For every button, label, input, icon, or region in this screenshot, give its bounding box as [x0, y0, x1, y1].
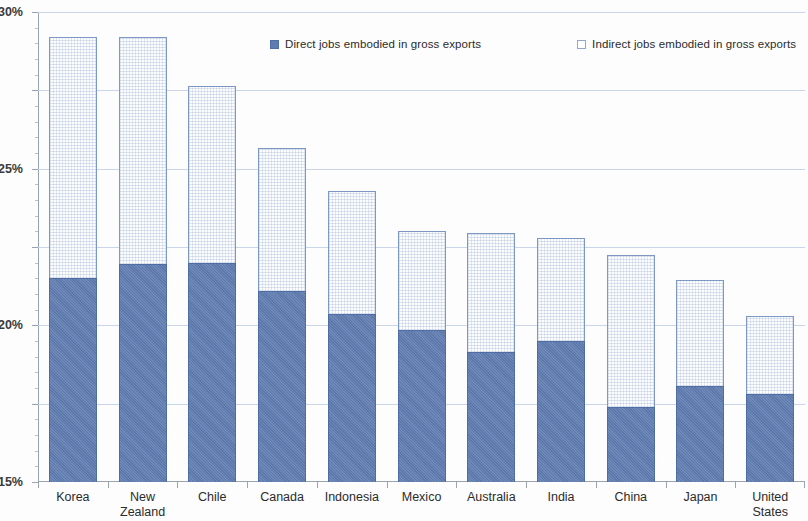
- bar-segment-direct[interactable]: [467, 352, 515, 482]
- x-axis-tick-mark: [247, 482, 248, 488]
- y-axis-tick-label: 15%: [0, 475, 23, 489]
- x-axis-label-line: Indonesia: [317, 490, 387, 505]
- bar-segment-indirect[interactable]: [746, 316, 794, 394]
- bar-segment-direct[interactable]: [328, 314, 376, 482]
- x-axis-label-line: Chile: [177, 490, 247, 505]
- x-axis-category-label: Indonesia: [317, 489, 387, 521]
- x-axis-tick-mark: [804, 482, 805, 488]
- bar-slot: [177, 12, 247, 482]
- x-axis-category-label: Australia: [456, 489, 526, 521]
- bar-segment-indirect[interactable]: [398, 231, 446, 330]
- bar-slot: [108, 12, 178, 482]
- x-axis-label-line: New: [108, 490, 178, 505]
- x-axis-category-label: Chile: [177, 489, 247, 521]
- bar-segment-direct[interactable]: [49, 278, 97, 482]
- bar-segment-direct[interactable]: [398, 330, 446, 482]
- y-axis-tick-label: 25%: [0, 162, 23, 176]
- bar-slot: [387, 12, 457, 482]
- x-axis-tick-mark: [387, 482, 388, 488]
- bar-segment-indirect[interactable]: [537, 238, 585, 341]
- bar-slot: [247, 12, 317, 482]
- x-axis-label-line: Zealand: [108, 505, 178, 520]
- x-axis-tick-mark: [456, 482, 457, 488]
- x-axis-label-line: Japan: [666, 490, 736, 505]
- x-axis-category-label: Korea: [38, 489, 108, 521]
- x-axis-labels: KoreaNewZealandChileCanadaIndonesiaMexic…: [38, 489, 805, 521]
- bar-segment-indirect[interactable]: [676, 280, 724, 387]
- x-axis-label-line: United: [735, 490, 805, 505]
- x-axis-tick-mark: [666, 482, 667, 488]
- x-axis-label-line: States: [735, 505, 805, 520]
- stacked-bar[interactable]: [537, 238, 585, 482]
- stacked-bar[interactable]: [398, 231, 446, 482]
- chart-container: Direct jobs embodied in gross exports In…: [0, 0, 808, 521]
- x-axis-tick-mark: [526, 482, 527, 488]
- bar-segment-direct[interactable]: [676, 386, 724, 482]
- y-axis-tick-label: 30%: [0, 5, 23, 19]
- bar-segment-indirect[interactable]: [119, 37, 167, 264]
- x-axis-label-line: Australia: [456, 490, 526, 505]
- x-axis-label-line: Mexico: [387, 490, 457, 505]
- bar-slot: [596, 12, 666, 482]
- bar-segment-indirect[interactable]: [258, 148, 306, 291]
- x-axis-category-label: Mexico: [387, 489, 457, 521]
- bar-segment-direct[interactable]: [746, 394, 794, 482]
- bar-slot: [526, 12, 596, 482]
- bar-segment-indirect[interactable]: [328, 191, 376, 315]
- x-axis-tick-mark: [317, 482, 318, 488]
- x-axis-label-line: China: [596, 490, 666, 505]
- x-axis-category-label: India: [526, 489, 596, 521]
- bar-segment-direct[interactable]: [258, 291, 306, 482]
- x-axis-label-line: Canada: [247, 490, 317, 505]
- x-axis-category-label: Canada: [247, 489, 317, 521]
- stacked-bar[interactable]: [328, 191, 376, 482]
- bar-segment-indirect[interactable]: [188, 86, 236, 263]
- x-axis-category-label: China: [596, 489, 666, 521]
- bar-segment-indirect[interactable]: [467, 233, 515, 352]
- x-axis-label-line: India: [526, 490, 596, 505]
- bar-slot: [38, 12, 108, 482]
- stacked-bar[interactable]: [119, 37, 167, 482]
- bar-slot: [456, 12, 526, 482]
- x-axis-label-line: Korea: [38, 490, 108, 505]
- stacked-bar[interactable]: [607, 255, 655, 482]
- stacked-bar[interactable]: [746, 316, 794, 482]
- x-axis-tick-mark: [177, 482, 178, 488]
- x-axis-tick-mark: [108, 482, 109, 488]
- stacked-bar[interactable]: [676, 280, 724, 482]
- x-axis-category-label: NewZealand: [108, 489, 178, 521]
- bar-segment-indirect[interactable]: [607, 255, 655, 407]
- x-axis-category-label: UnitedStates: [735, 489, 805, 521]
- bar-segment-direct[interactable]: [119, 264, 167, 482]
- plot-area: 0%5%10%15%20%25%30%: [38, 12, 805, 482]
- bar-slot: [735, 12, 805, 482]
- x-axis-tick-mark: [735, 482, 736, 488]
- bar-slot: [666, 12, 736, 482]
- bar-segment-indirect[interactable]: [49, 37, 97, 278]
- stacked-bar[interactable]: [49, 37, 97, 482]
- x-axis-tick-mark: [596, 482, 597, 488]
- bar-slot: [317, 12, 387, 482]
- bar-segment-direct[interactable]: [537, 341, 585, 482]
- bar-segment-direct[interactable]: [188, 263, 236, 482]
- x-axis-tick-mark: [38, 482, 39, 488]
- y-axis-tick-label: 20%: [0, 318, 23, 332]
- stacked-bar[interactable]: [467, 233, 515, 482]
- stacked-bar[interactable]: [188, 86, 236, 482]
- x-axis-category-label: Japan: [666, 489, 736, 521]
- bars-layer: [38, 12, 805, 482]
- stacked-bar[interactable]: [258, 148, 306, 482]
- bar-segment-direct[interactable]: [607, 407, 655, 482]
